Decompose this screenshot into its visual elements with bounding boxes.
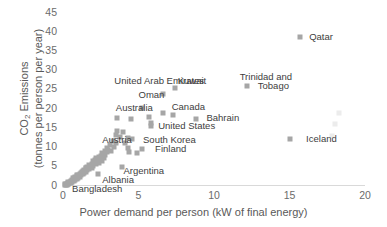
y-tick-label: 0 [39,180,57,191]
y-tick-label: 5 [39,160,57,171]
co2-vs-power-demand-scatter-chart: CO2 Emissions (tonnes per person per yea… [0,0,387,227]
data-point-marker-faint [337,111,342,116]
y-tick-label: 10 [39,141,57,152]
data-point-label: Iceland [306,134,337,145]
data-point-label: Qatar [309,32,333,43]
data-point-label: Australia [116,103,153,114]
data-point-marker [147,114,152,119]
y-tick-label: 25 [39,83,57,94]
data-point-label: Bangladesh [72,184,122,195]
data-point-marker [115,116,120,121]
x-tick-label: 15 [278,190,302,201]
data-point-marker [139,146,144,151]
data-point-marker [84,165,89,170]
data-point-label: United Arab Emirates [114,76,204,87]
x-tick-label: 20 [353,190,377,201]
data-point-marker [109,149,114,154]
y-tick-label: 40 [39,26,57,37]
y-tick-label: 30 [39,64,57,75]
x-axis-title: Power demand per person (kW of final ene… [0,206,387,218]
data-point-marker [287,136,292,141]
data-point-marker [70,175,75,180]
y-tick-label: 45 [39,7,57,18]
y-axis-title-line1: CO2 Emissions [18,6,32,191]
data-point-marker [128,116,133,121]
data-point-marker [245,83,250,88]
data-point-marker [95,172,100,177]
data-point-label: United States [158,121,215,132]
data-point-marker [97,156,102,161]
data-point-marker [134,150,139,155]
data-point-marker [102,148,107,153]
data-point-marker [148,123,153,128]
data-point-marker [298,34,303,39]
plot-area: QatarTrinidad andTobagoKuwaitUnited Arab… [63,12,365,185]
data-point-marker [64,182,69,187]
data-point-marker [79,169,84,174]
data-point-label: Austria [102,135,132,146]
data-point-marker [88,163,93,168]
y-tick-label: 15 [39,122,57,133]
data-point-label: Oman [139,90,165,101]
data-point-label: Canada [172,102,205,113]
data-point-label: Tobago [258,81,289,92]
data-point-marker [121,129,126,134]
y-tick-label: 35 [39,45,57,56]
data-point-marker [160,110,165,115]
data-point-marker-faint [332,121,337,126]
x-tick-label: 5 [127,190,151,201]
data-point-marker [93,158,98,163]
y-tick-label: 20 [39,103,57,114]
data-point-marker [75,172,80,177]
x-tick-label: 10 [202,190,226,201]
data-point-label: Finland [155,144,186,155]
data-point-marker [171,112,176,117]
data-point-marker [127,150,132,155]
